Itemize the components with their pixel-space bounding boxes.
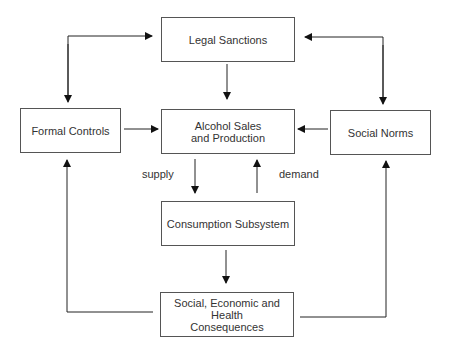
node-label: Consumption Subsystem bbox=[167, 218, 289, 230]
node-alcohol-sales: Alcohol Sales and Production bbox=[161, 109, 295, 154]
label-supply: supply bbox=[142, 168, 174, 180]
node-consequences: Social, Economic and Health Consequences bbox=[160, 292, 294, 337]
node-label: Alcohol Sales and Production bbox=[184, 120, 272, 144]
label-demand: demand bbox=[279, 168, 319, 180]
node-label: Social, Economic and Health Consequences bbox=[173, 297, 281, 333]
node-label: Social Norms bbox=[348, 127, 413, 139]
node-formal-controls: Formal Controls bbox=[20, 108, 121, 153]
node-consumption-subsystem: Consumption Subsystem bbox=[161, 201, 295, 246]
node-legal-sanctions: Legal Sanctions bbox=[161, 17, 295, 62]
edge-norms-legal bbox=[305, 37, 383, 102]
edge-consequences-formal bbox=[67, 160, 153, 312]
node-label: Formal Controls bbox=[31, 125, 109, 137]
node-social-norms: Social Norms bbox=[330, 110, 431, 155]
node-label: Legal Sanctions bbox=[189, 34, 267, 46]
edge-consequences-norms bbox=[300, 161, 386, 317]
edge-formal-legal bbox=[68, 36, 152, 100]
